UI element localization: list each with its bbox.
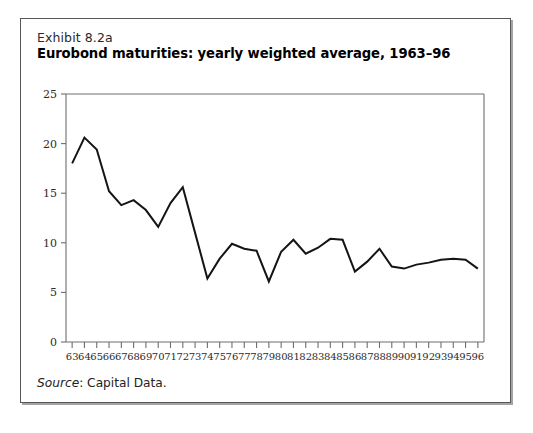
x-tick-label: 65 <box>90 351 103 362</box>
x-tick-label: 79 <box>262 351 275 362</box>
x-tick-label: 85 <box>336 351 349 362</box>
x-tick-label: 83 <box>312 351 325 362</box>
x-tick-label: 71 <box>164 351 177 362</box>
source-label: Source <box>37 376 79 390</box>
x-tick-label: 96 <box>471 351 484 362</box>
x-tick-label: 95 <box>459 351 472 362</box>
x-tick-label: 64 <box>78 351 91 362</box>
x-tick-label: 63 <box>66 351 79 362</box>
source-value: : Capital Data. <box>79 376 167 390</box>
x-tick-label: 80 <box>275 351 288 362</box>
x-tick-label: 69 <box>140 351 153 362</box>
source-note: Source: Capital Data. <box>37 376 167 390</box>
y-tick-label: 10 <box>43 237 57 250</box>
y-tick-label: 25 <box>43 88 57 101</box>
x-tick-label: 81 <box>287 351 300 362</box>
x-tick-label: 94 <box>447 351 460 362</box>
x-tick-label: 73 <box>189 351 202 362</box>
y-tick-label: 20 <box>43 138 57 151</box>
x-tick-label: 93 <box>435 351 448 362</box>
y-tick-label: 5 <box>50 286 57 299</box>
x-tick-label: 72 <box>176 351 189 362</box>
x-tick-label: 90 <box>398 351 411 362</box>
x-tick-label: 66 <box>103 351 116 362</box>
x-tick-label: 89 <box>385 351 398 362</box>
x-tick-label: 88 <box>373 351 386 362</box>
x-tick-label: 82 <box>299 351 312 362</box>
y-axis: 0510152025 <box>43 88 484 349</box>
x-tick-label: 78 <box>250 351 263 362</box>
x-axis: 6364656667686970717273747576777879808182… <box>66 342 484 362</box>
line-chart: 0510152025 63646566676869707172737475767… <box>21 19 512 404</box>
exhibit-frame: Exhibit 8.2a Eurobond maturities: yearly… <box>20 18 511 403</box>
x-tick-label: 84 <box>324 351 337 362</box>
y-tick-label: 15 <box>43 187 57 200</box>
x-tick-label: 75 <box>213 351 226 362</box>
x-tick-label: 76 <box>226 351 239 362</box>
x-tick-label: 86 <box>349 351 362 362</box>
x-tick-label: 74 <box>201 351 214 362</box>
y-tick-label: 0 <box>50 336 57 349</box>
x-tick-label: 70 <box>152 351 165 362</box>
x-tick-label: 91 <box>410 351 423 362</box>
x-tick-label: 77 <box>238 351 251 362</box>
x-tick-label: 87 <box>361 351 374 362</box>
x-tick-label: 68 <box>127 351 140 362</box>
series-line-eurobond-maturities <box>72 138 478 282</box>
x-tick-label: 92 <box>422 351 435 362</box>
chart-svg: 0510152025 63646566676869707172737475767… <box>21 19 512 404</box>
x-tick-label: 67 <box>115 351 128 362</box>
